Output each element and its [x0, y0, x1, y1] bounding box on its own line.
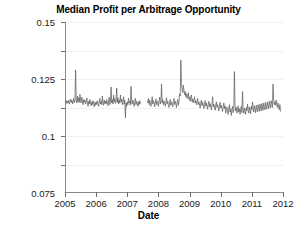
x-tick-label: 2005 [54, 198, 75, 209]
x-tick-label: 2007 [117, 198, 138, 209]
chart-figure: Median Profit per Arbitrage Opportunity … [0, 0, 297, 228]
x-axis-label: Date [0, 210, 297, 221]
x-tick-label: 2010 [210, 198, 231, 209]
x-tick-label: 2011 [242, 198, 262, 209]
x-tick [283, 192, 284, 197]
x-tick-label: 2012 [272, 198, 293, 209]
x-tick-label: 2006 [86, 198, 107, 209]
chart-title: Median Profit per Arbitrage Opportunity [0, 4, 297, 15]
x-tick-label: 2008 [148, 198, 169, 209]
series-svg [65, 22, 283, 193]
y-tick-label: 0.15 [37, 17, 56, 28]
plot-area: 0.0250.050.0750.10.1250.15 2005200620072… [65, 22, 283, 193]
x-tick-label: 2009 [179, 198, 200, 209]
series-line-median-profit [65, 60, 281, 118]
y-tick-label: 0.1 [42, 131, 55, 142]
y-tick-label: 0.075 [31, 188, 55, 199]
y-tick-label: 0.125 [31, 74, 55, 85]
